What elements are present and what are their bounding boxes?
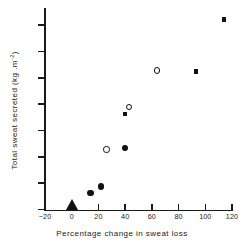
y-axis-label-main: Total sweat secreted (kg .m xyxy=(10,60,19,170)
x-tick-label: −20 xyxy=(30,213,60,220)
y-tick-mark xyxy=(38,182,45,183)
y-axis-label: Total sweat secreted (kg .m-2) xyxy=(9,10,20,210)
x-axis-label: Percentage change in sweat loss xyxy=(0,229,244,238)
data-point-filled-square xyxy=(194,69,199,74)
y-tick-mark xyxy=(38,24,45,25)
data-point-filled-circle xyxy=(87,190,93,196)
x-tick-label: 40 xyxy=(110,213,140,220)
y-axis-label-tail: ) xyxy=(10,51,19,54)
data-point-filled-square xyxy=(222,17,227,22)
scatter-plot-figure: 02468101214 −20020406080100120 Percentag… xyxy=(0,0,244,249)
data-point-filled-square xyxy=(123,112,128,117)
x-tick-mark xyxy=(124,204,125,211)
y-axis-label-exponent: -2 xyxy=(9,54,15,60)
y-axis-line xyxy=(44,8,46,211)
x-tick-label: 20 xyxy=(83,213,113,220)
x-tick-mark xyxy=(44,204,45,211)
x-tick-label: 120 xyxy=(217,213,244,220)
y-tick-mark xyxy=(38,51,45,52)
y-tick-mark xyxy=(38,130,45,131)
y-tick-mark xyxy=(38,103,45,104)
x-tick-label: 60 xyxy=(137,213,167,220)
data-point-open-circle xyxy=(126,104,132,110)
x-tick-mark xyxy=(151,204,152,211)
x-tick-mark xyxy=(205,204,206,211)
data-point-filled-circle xyxy=(122,145,128,151)
x-tick-mark xyxy=(178,204,179,211)
x-tick-mark xyxy=(231,204,232,211)
data-point-filled-triangle xyxy=(66,199,78,210)
x-tick-mark xyxy=(98,204,99,211)
data-point-filled-circle xyxy=(98,183,104,189)
y-tick-mark xyxy=(38,77,45,78)
x-tick-label: 0 xyxy=(57,213,87,220)
x-tick-label: 100 xyxy=(190,213,220,220)
y-tick-mark xyxy=(38,156,45,157)
data-point-open-circle xyxy=(103,146,109,152)
x-tick-label: 80 xyxy=(164,213,194,220)
data-point-open-circle xyxy=(154,67,160,73)
